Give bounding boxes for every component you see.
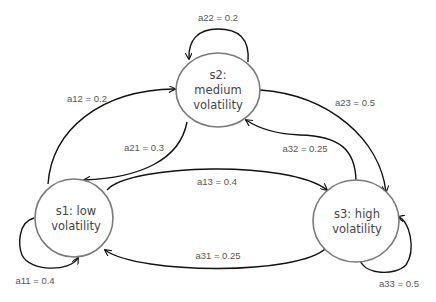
state-s3-high-volatility: s3: high volatility — [313, 180, 399, 262]
state-s3-label-line2: volatility — [332, 222, 382, 236]
markov-state-diagram: s2: medium volatility s1: low volatility… — [0, 0, 436, 302]
label-a21: a21 = 0.3 — [124, 142, 164, 153]
state-s2-label-line2: medium — [194, 83, 241, 97]
label-a11: a11 = 0.4 — [15, 275, 54, 286]
label-a31: a31 = 0.25 — [195, 250, 240, 261]
state-s1-label-line1: s1: low — [56, 204, 96, 218]
state-s1-circle — [35, 179, 113, 257]
state-s2-label-line1: s2: — [209, 68, 226, 82]
state-s2-medium-volatility: s2: medium volatility — [176, 53, 260, 127]
state-s1-label-line2: volatility — [51, 219, 101, 233]
state-s1-low-volatility: s1: low volatility — [35, 179, 113, 257]
label-a32: a32 = 0.25 — [282, 143, 327, 154]
state-s3-circle — [313, 180, 399, 262]
state-s2-label-line3: volatility — [193, 98, 243, 112]
state-s3-label-line1: s3: high — [334, 207, 380, 221]
label-a23: a23 = 0.5 — [335, 97, 375, 108]
label-a13: a13 = 0.4 — [197, 176, 237, 187]
label-a22: a22 = 0.2 — [198, 12, 238, 23]
label-a33: a33 = 0.5 — [379, 278, 419, 289]
label-a12: a12 = 0.2 — [67, 93, 107, 104]
